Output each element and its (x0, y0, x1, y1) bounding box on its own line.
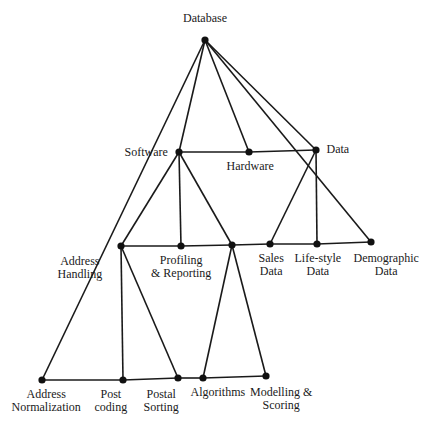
label-database: Database (183, 12, 227, 25)
node-data (312, 146, 319, 153)
edge-address_handling-post_coding (121, 246, 123, 380)
label-line: Data (327, 143, 350, 156)
label-modelling: Modelling &Scoring (250, 386, 312, 412)
label-line: Data (295, 265, 342, 278)
node-modelling (262, 372, 269, 379)
label-post-coding: Postcoding (95, 388, 128, 414)
edge-data-lifestyle (316, 150, 317, 244)
edge-database-hardware (205, 40, 249, 152)
node-demographic (367, 238, 374, 245)
label-line: Sorting (144, 401, 179, 414)
label-line: Data (259, 265, 284, 278)
node-post-coding (119, 376, 126, 383)
node-address-handling (117, 242, 124, 249)
edge-hardware-data (249, 150, 316, 152)
label-data: Data (327, 143, 350, 156)
label-line: Normalization (12, 401, 81, 414)
edge-algo_junction-sales (232, 244, 270, 245)
diagram-canvas (0, 0, 441, 438)
label-address-norm: AddressNormalization (12, 388, 81, 414)
node-algorithms (199, 374, 206, 381)
label-line: & Reporting (151, 267, 211, 280)
node-hardware (245, 148, 252, 155)
label-demographic: DemographicData (354, 252, 419, 278)
label-line: Data (354, 265, 419, 278)
label-line: Scoring (250, 399, 312, 412)
edge-software-profiling (179, 152, 181, 246)
edge-profiling-algo_junction (181, 245, 232, 246)
edge-software-algo_junction (179, 152, 232, 245)
node-algo-junction (228, 241, 235, 248)
label-line: Algorithms (191, 386, 246, 399)
label-line: Software (125, 146, 168, 159)
edge-database-data (205, 40, 316, 150)
edge-lifestyle-demographic (317, 242, 371, 244)
label-hardware: Hardware (227, 160, 274, 173)
edge-software-address_handling (121, 152, 179, 246)
label-software: Software (125, 146, 168, 159)
edge-database-demographic (205, 40, 371, 242)
node-profiling (177, 242, 184, 249)
label-algorithms: Algorithms (191, 386, 246, 399)
label-profiling: Profiling& Reporting (151, 254, 211, 280)
node-postal-sorting (174, 374, 181, 381)
edge-database-software (179, 40, 205, 152)
label-line: coding (95, 401, 128, 414)
label-sales: SalesData (259, 252, 284, 278)
node-software (175, 148, 182, 155)
label-line: Handling (58, 268, 103, 281)
label-line: Database (183, 12, 227, 25)
node-sales (266, 240, 273, 247)
node-address-norm (38, 376, 45, 383)
edge-post_coding-postal_sorting (123, 378, 178, 380)
node-lifestyle (313, 240, 320, 247)
label-postal-sorting: PostalSorting (144, 388, 179, 414)
label-address-handling: AddressHandling (58, 255, 103, 281)
label-lifestyle: Life-styleData (295, 252, 342, 278)
label-line: Hardware (227, 160, 274, 173)
node-database (201, 36, 208, 43)
edge-data-sales (270, 150, 316, 244)
edge-algorithms-modelling (203, 376, 266, 378)
